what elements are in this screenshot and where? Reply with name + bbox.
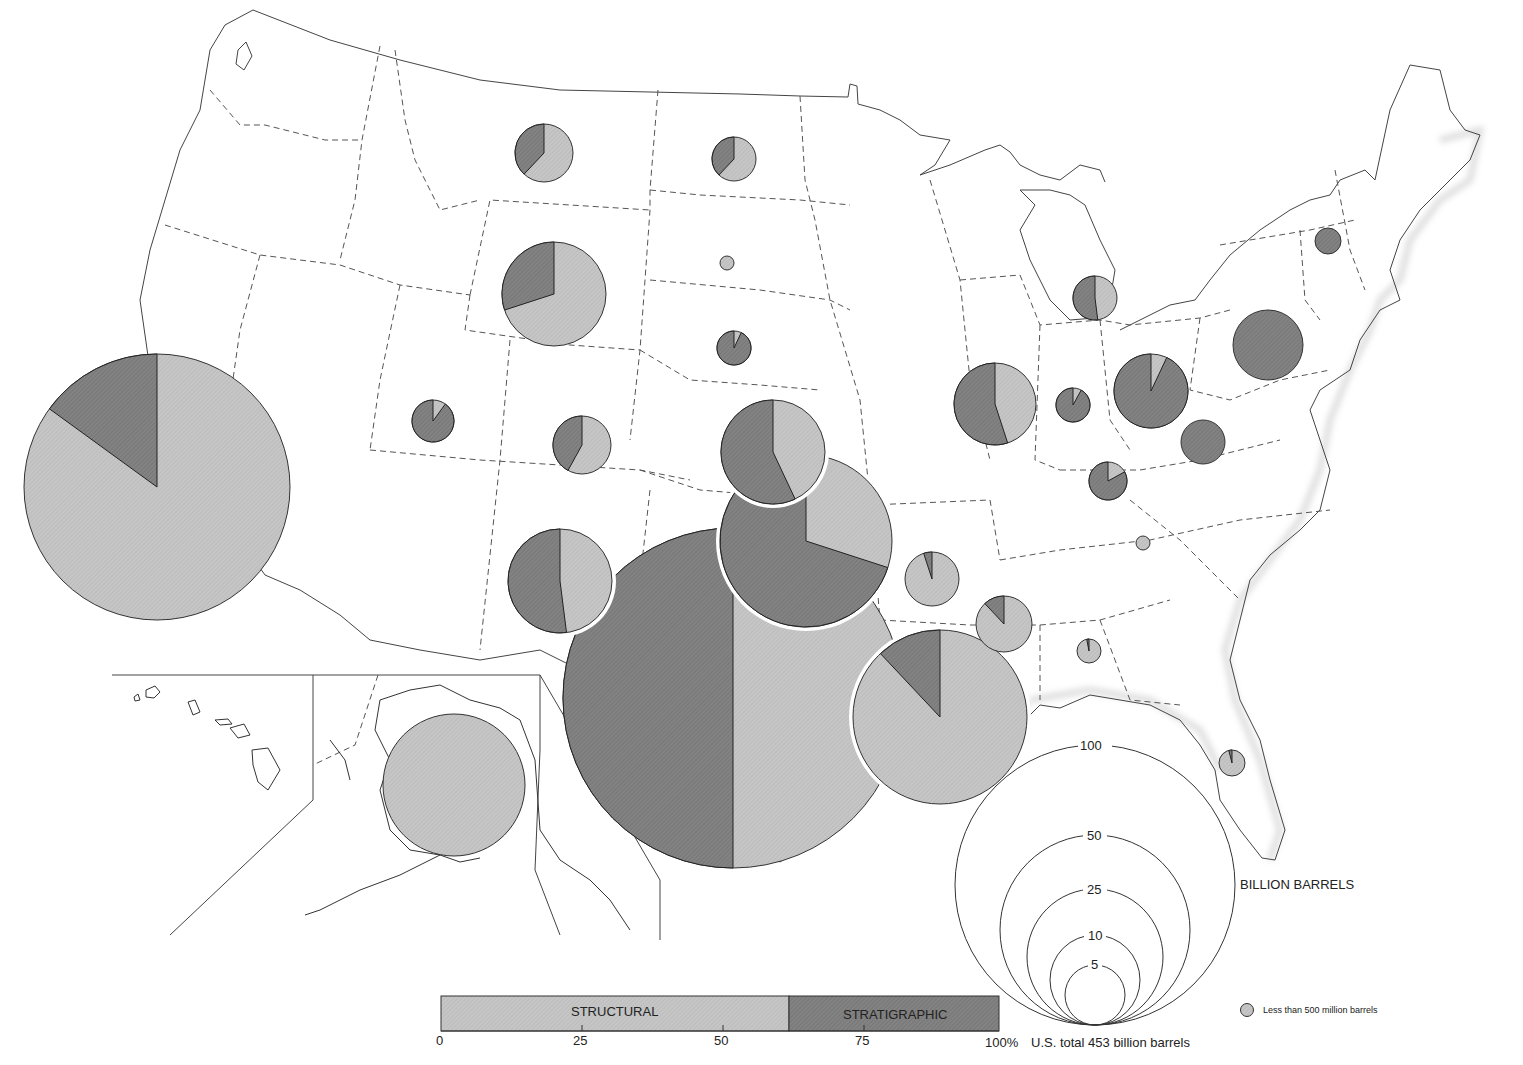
tick-50: 50 <box>714 1033 728 1048</box>
unit-label: BILLION BARRELS <box>1240 877 1354 892</box>
pie-montana <box>515 124 573 182</box>
stratigraphic-label: STRATIGRAPHIC <box>843 1007 948 1022</box>
pie-pennsylvania <box>1233 310 1303 380</box>
pie-alabama <box>1077 639 1101 663</box>
scale-label-10: 10 <box>1088 928 1102 943</box>
pie-kansas <box>717 396 829 508</box>
tick-100: 100% <box>985 1035 1018 1050</box>
pie-kentucky <box>1089 462 1127 500</box>
pie-west-virginia <box>1181 420 1225 464</box>
pie-new-york <box>1315 228 1341 254</box>
pie-alaska <box>383 714 525 856</box>
pie-charts <box>24 124 1341 868</box>
pie-california <box>24 354 290 620</box>
pie-utah <box>412 400 454 442</box>
pie-illinois <box>954 363 1036 445</box>
pie-colorado <box>553 416 611 474</box>
canada-border <box>253 10 950 175</box>
pie-indiana <box>1056 388 1090 422</box>
inset-dashed <box>313 675 378 765</box>
pie-ohio <box>1114 354 1188 428</box>
small-marker-label: Less than 500 million barrels <box>1263 1005 1378 1015</box>
structural-label: STRUCTURAL <box>571 1004 658 1019</box>
pie-florida <box>1219 750 1245 776</box>
hawaii-islands <box>134 686 280 790</box>
small-reserve-marker <box>1241 1004 1254 1017</box>
oil-reserves-map <box>0 0 1523 1065</box>
pie-louisiana <box>849 626 1031 808</box>
pie-tennessee <box>1136 536 1150 550</box>
pie-michigan <box>1073 276 1117 320</box>
tick-0: 0 <box>436 1033 443 1048</box>
scale-label-50: 50 <box>1087 828 1101 843</box>
tick-75: 75 <box>855 1033 869 1048</box>
pie-new-mexico <box>504 525 616 637</box>
scale-label-100: 100 <box>1080 738 1102 753</box>
pie-north-dakota <box>712 137 756 181</box>
pie-south-dakota <box>720 256 734 270</box>
tick-25: 25 <box>573 1033 587 1048</box>
pie-arkansas <box>905 552 959 606</box>
scale-label-5: 5 <box>1091 957 1098 972</box>
pie-wyoming <box>502 242 606 346</box>
pie-nebraska <box>717 331 751 365</box>
scale-label-25: 25 <box>1087 882 1101 897</box>
us-total-label: U.S. total 453 billion barrels <box>1031 1035 1190 1050</box>
pie-mississippi <box>976 596 1032 652</box>
